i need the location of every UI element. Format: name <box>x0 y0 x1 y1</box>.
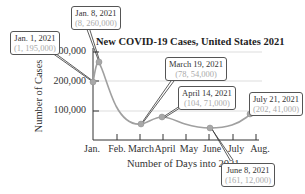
callout-date: Jan. 1, 2021 <box>14 33 56 43</box>
callout-date: Jan. 8, 2021 <box>75 8 117 18</box>
callout-coords: (78, 54,000) <box>169 69 223 79</box>
callout-coords: (104, 71,000) <box>182 98 232 108</box>
callout-jan-1: Jan. 1, 2021 (1, 195,000) <box>10 31 60 55</box>
callout-march-19: March 19, 2021 (78, 54,000) <box>165 57 227 81</box>
callout-coords: (1, 195,000) <box>14 43 56 53</box>
callout-coords: (202, 41,000) <box>253 104 299 114</box>
callout-april-14: April 14, 2021 (104, 71,000) <box>178 86 236 110</box>
callout-date: June 8, 2021 <box>225 165 271 175</box>
callout-date: July 21, 2021 <box>253 94 299 104</box>
callout-july-21: July 21, 2021 (202, 41,000) <box>249 92 303 116</box>
callout-date: April 14, 2021 <box>182 88 232 98</box>
covid-cases-chart: New COVID-19 Cases, United States 2021 3… <box>0 0 305 194</box>
x-tick-aug: Aug. <box>245 143 275 154</box>
y-axis-label: Number of Cases <box>33 60 44 133</box>
callout-jan-8: Jan. 8, 2021 (8, 260,000) <box>71 6 121 30</box>
callout-coords: (8, 260,000) <box>75 18 117 28</box>
callout-date: March 19, 2021 <box>169 59 223 69</box>
callout-coords: (161, 12,000) <box>225 175 271 185</box>
callout-june-8: June 8, 2021 (161, 12,000) <box>221 163 275 187</box>
chart-title: New COVID-19 Cases, United States 2021 <box>96 36 284 47</box>
